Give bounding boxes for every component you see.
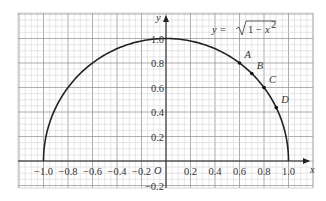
x-tick-label: −0.8	[58, 166, 77, 177]
tick-labels: −1.0−0.8−0.6−0.4−0.20.20.40.60.81.01.00.…	[34, 34, 295, 192]
origin-label: O	[154, 165, 162, 176]
y-tick-label: 0.2	[151, 132, 164, 143]
x-tick-label: 0.2	[184, 166, 197, 177]
x-tick-label: 0.4	[208, 166, 222, 177]
point-label-a: A	[244, 49, 252, 60]
equation-label: y =	[211, 24, 226, 35]
y-tick-label: 0.8	[151, 58, 164, 69]
y-tick-label: −0.2	[145, 181, 164, 192]
semicircle-chart: ABCD −1.0−0.8−0.6−0.4−0.20.20.40.60.81.0…	[0, 0, 326, 201]
svg-text:x: x	[264, 24, 270, 35]
x-tick-label: −1.0	[34, 166, 53, 177]
y-tick-label: 0.6	[151, 83, 164, 94]
y-axis-label: y	[155, 12, 161, 23]
point-b	[250, 72, 254, 76]
point-c	[262, 86, 266, 90]
point-a	[238, 61, 242, 65]
point-label-d: D	[280, 94, 289, 105]
x-axis-label: x	[309, 164, 315, 175]
x-tick-label: 0.6	[233, 166, 246, 177]
point-d	[274, 106, 278, 110]
y-tick-label: 1.0	[151, 34, 164, 45]
x-tick-label: 0.8	[257, 166, 270, 177]
svg-text:1 −: 1 −	[248, 24, 262, 35]
point-label-b: B	[257, 60, 264, 71]
point-label-c: C	[269, 74, 277, 85]
x-tick-label: −0.4	[107, 166, 127, 177]
x-tick-label: 1.0	[282, 166, 295, 177]
y-tick-label: 0.4	[151, 107, 165, 118]
svg-text:2: 2	[271, 19, 276, 30]
x-tick-label: −0.6	[83, 166, 102, 177]
x-tick-label: −0.2	[132, 166, 151, 177]
